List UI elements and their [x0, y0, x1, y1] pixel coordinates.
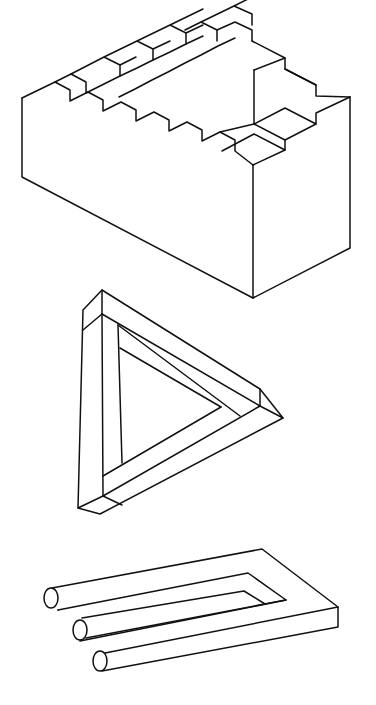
illustration-canvas	[0, 0, 376, 705]
impossible-figures-drawing	[0, 0, 376, 705]
prong-end-top	[44, 588, 58, 608]
prong-end-middle	[73, 620, 87, 640]
prong-end-bottom	[93, 651, 107, 671]
penrose-triangle	[78, 290, 283, 514]
blivet	[44, 549, 338, 671]
penrose-stairs	[22, 0, 350, 298]
